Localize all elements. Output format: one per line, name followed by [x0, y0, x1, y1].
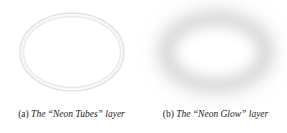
caption-label-a: (a): [18, 109, 29, 119]
panel-neon-tubes: [0, 0, 143, 104]
neon-glow-artwork: [151, 2, 281, 102]
caption-text-b: The “Neon Glow” layer: [176, 109, 268, 119]
caption-neon-tubes: (a) The “Neon Tubes” layer: [0, 108, 143, 121]
caption-text-a: The “Neon Tubes” layer: [31, 109, 125, 119]
figure-panels: [0, 0, 287, 104]
figure-neon-layers: (a) The “Neon Tubes” layer (b) The “Neon…: [0, 0, 287, 133]
glow-ring-inner: [162, 14, 270, 90]
panel-neon-glow: [144, 0, 287, 104]
neon-tubes-artwork: [17, 8, 127, 96]
caption-neon-glow: (b) The “Neon Glow” layer: [144, 108, 287, 121]
caption-label-b: (b): [163, 109, 174, 119]
figure-captions: (a) The “Neon Tubes” layer (b) The “Neon…: [0, 104, 287, 133]
